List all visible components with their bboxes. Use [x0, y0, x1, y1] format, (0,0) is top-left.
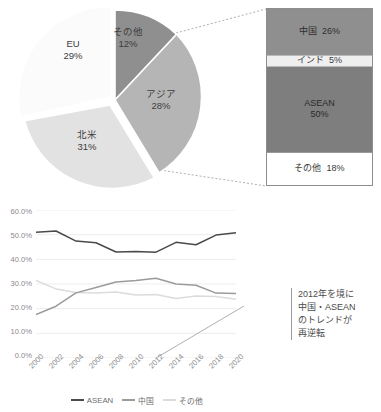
y-tick-10: 10.0%: [0, 327, 32, 336]
annotation-line-2: 中国・ASEAN: [298, 301, 381, 314]
bar-segment-sonota[interactable]: その他 18%: [267, 152, 372, 185]
legend-item-sonota[interactable]: その他: [163, 395, 203, 406]
trend-annotation-note: 2012年を境に 中国・ASEAN のトレンドが 再逆転: [291, 288, 381, 340]
slide-canvas: その他 12% アジア 28% 北米 31% EU 29% 中国 26% インド…: [0, 0, 381, 412]
legend-swatch-asean: [71, 399, 84, 401]
bar-segment-china-value: 26%: [322, 26, 340, 36]
annotation-line-3: のトレンドが: [298, 314, 381, 327]
legend-label-china: 中国: [138, 395, 154, 406]
pie-label-hokubei: 北米 31%: [61, 129, 113, 153]
pie-label-sonota-name: その他: [113, 26, 143, 37]
bar-segment-china-name: 中国: [299, 26, 317, 36]
bar-segment-india[interactable]: インド 5%: [267, 55, 372, 67]
y-tick-20: 20.0%: [0, 303, 32, 312]
line-chart-legend: ASEAN 中国 その他: [62, 392, 212, 408]
bar-segment-sonota-value: 18%: [327, 163, 345, 173]
pie-label-asia: アジア 28%: [135, 88, 187, 112]
bar-segment-india-value: 5%: [329, 55, 342, 65]
legend-swatch-sonota: [163, 399, 176, 401]
pie-slice-eu[interactable]: [19, 7, 111, 117]
legend-item-china[interactable]: 中国: [122, 395, 154, 406]
annotation-pointer-line: [36, 210, 244, 358]
pie-label-hokubei-value: 31%: [61, 141, 113, 153]
pie-label-asia-value: 28%: [135, 100, 187, 112]
bar-segment-asean-name: ASEAN: [304, 98, 335, 108]
pie-label-eu-value: 29%: [47, 50, 99, 62]
y-tick-40: 40.0%: [0, 255, 32, 264]
asia-breakdown-stacked-bar: 中国 26% インド 5% ASEAN 50% その他 18%: [266, 8, 373, 186]
bar-segment-india-name: インド: [297, 55, 324, 65]
pie-label-sonota-value: 12%: [102, 38, 154, 50]
pie-label-sonota: その他 12%: [102, 26, 154, 50]
legend-item-asean[interactable]: ASEAN: [71, 396, 113, 405]
region-share-pie-chart: その他 12% アジア 28% 北米 31% EU 29%: [18, 4, 208, 194]
pie-label-eu: EU 29%: [47, 38, 99, 62]
pie-label-eu-name: EU: [66, 38, 79, 49]
legend-label-asean: ASEAN: [87, 396, 113, 405]
bar-segment-china[interactable]: 中国 26%: [267, 9, 372, 55]
bar-segment-sonota-name: その他: [294, 163, 321, 173]
bar-segment-asean[interactable]: ASEAN 50%: [267, 67, 372, 151]
trend-line-chart: 60.0% 50.0% 40.0% 30.0% 20.0% 10.0% 0.0%: [0, 196, 244, 386]
pie-label-asia-name: アジア: [146, 88, 176, 99]
annotation-line-4: 再逆転: [298, 327, 381, 340]
y-tick-0: 0.0%: [0, 351, 32, 360]
legend-swatch-china: [122, 399, 135, 401]
legend-label-sonota: その他: [179, 395, 203, 406]
y-tick-50: 50.0%: [0, 231, 32, 240]
y-tick-60: 60.0%: [0, 207, 32, 216]
y-tick-30: 30.0%: [0, 279, 32, 288]
annotation-line-1: 2012年を境に: [298, 288, 381, 301]
bar-segment-asean-value: 50%: [310, 109, 328, 119]
pie-label-hokubei-name: 北米: [77, 129, 97, 140]
